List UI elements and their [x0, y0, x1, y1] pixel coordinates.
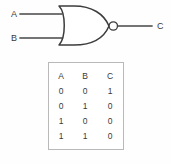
truth-table-header-row: A B C	[49, 69, 123, 84]
column-header-c: C	[97, 69, 123, 84]
truth-table-head: A B C	[49, 69, 123, 84]
input-label-b: B	[11, 34, 17, 43]
cell-c: 0	[97, 114, 123, 129]
nor-gate-body	[59, 6, 109, 45]
cell-a: 1	[49, 129, 73, 144]
truth-table: A B C 0 0 1 0 1 0 1 0	[48, 62, 124, 150]
cell-b: 1	[73, 129, 97, 144]
cell-b: 1	[73, 99, 97, 114]
cell-c: 0	[97, 99, 123, 114]
nor-gate-circuit	[0, 0, 171, 60]
column-header-a: A	[49, 69, 73, 84]
table-row: 0 1 0	[49, 99, 123, 114]
cell-a: 0	[49, 99, 73, 114]
cell-c: 0	[97, 129, 123, 144]
truth-table-grid: A B C 0 0 1 0 1 0 1 0	[49, 69, 123, 144]
table-row: 1 1 0	[49, 129, 123, 144]
inversion-bubble-icon	[109, 22, 117, 30]
table-row: 0 0 1	[49, 84, 123, 99]
cell-b: 0	[73, 114, 97, 129]
output-label-c: C	[157, 22, 164, 31]
table-row: 1 0 0	[49, 114, 123, 129]
column-header-b: B	[73, 69, 97, 84]
logic-gate-figure: A B C A B C 0 0 1 0 1 0	[0, 0, 171, 164]
input-label-a: A	[11, 10, 17, 19]
cell-b: 0	[73, 84, 97, 99]
cell-a: 0	[49, 84, 73, 99]
truth-table-body: 0 0 1 0 1 0 1 0 0 1 1 0	[49, 84, 123, 144]
cell-a: 1	[49, 114, 73, 129]
cell-c: 1	[97, 84, 123, 99]
